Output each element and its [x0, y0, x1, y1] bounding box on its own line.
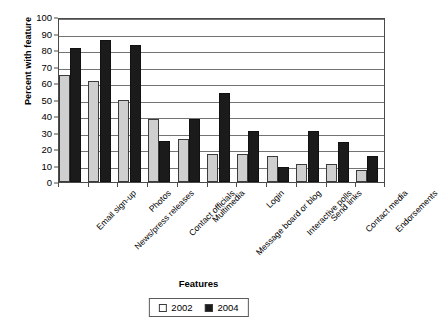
x-tick-mark — [326, 183, 327, 187]
x-tick-mark — [177, 183, 178, 187]
y-tick-label: 20 — [41, 145, 52, 155]
bar-group — [118, 19, 148, 182]
y-tick-label: 60 — [41, 79, 52, 89]
bar-2004 — [367, 156, 378, 182]
bar-2002 — [118, 100, 129, 183]
bar-2004 — [308, 131, 319, 182]
y-tick-label: 0 — [47, 178, 52, 188]
bar-2002 — [148, 119, 159, 182]
bar-2002 — [267, 156, 278, 182]
y-tick-label: 50 — [41, 96, 52, 106]
y-tick-label: 70 — [41, 63, 52, 73]
bar-group — [267, 19, 297, 182]
bar-2004 — [189, 119, 200, 182]
bar-2004 — [100, 40, 111, 182]
bar-group — [237, 19, 267, 182]
y-tick-label: 90 — [41, 30, 52, 40]
x-tick-mark — [296, 183, 297, 187]
bar-2004 — [338, 142, 349, 182]
bar-2002 — [178, 139, 189, 182]
x-tick-mark — [384, 183, 385, 187]
bar-group — [59, 19, 89, 182]
bar-group — [178, 19, 208, 182]
bar-2002 — [207, 154, 218, 182]
y-tick-label: 80 — [41, 46, 52, 56]
bar-2004 — [248, 131, 259, 182]
bar-2002 — [326, 164, 337, 182]
bar-group — [327, 19, 357, 182]
legend-item-2002: 2002 — [158, 302, 192, 313]
x-tick-mark — [147, 183, 148, 187]
bar-2002 — [59, 75, 70, 182]
bar-2002 — [237, 154, 248, 182]
bar-2002 — [88, 81, 99, 182]
x-tick-mark — [117, 183, 118, 187]
bar-group — [297, 19, 327, 182]
bar-2004 — [130, 45, 141, 182]
x-axis-title: Features — [0, 278, 397, 289]
y-tick-label: 10 — [41, 162, 52, 172]
bar-2004 — [278, 167, 289, 182]
y-tick-label: 40 — [41, 112, 52, 122]
bar-group — [208, 19, 238, 182]
bar-2004 — [219, 93, 230, 182]
x-category-label: Login — [264, 188, 286, 210]
x-tick-mark — [236, 183, 237, 187]
bar-group — [89, 19, 119, 182]
chart-legend: 20022004 — [148, 298, 248, 317]
bar-2002 — [356, 170, 367, 182]
bar-2004 — [70, 48, 81, 182]
x-tick-mark — [355, 183, 356, 187]
legend-swatch-icon — [158, 304, 166, 312]
bar-group — [356, 19, 386, 182]
legend-label: 2002 — [171, 302, 192, 313]
x-tick-mark — [88, 183, 89, 187]
legend-swatch-icon — [205, 304, 213, 312]
x-tick-mark — [207, 183, 208, 187]
x-category-label: Email sign-up — [95, 188, 139, 232]
bar-series-container — [59, 19, 384, 182]
y-tick-label: 100 — [36, 13, 52, 23]
plot-area — [58, 18, 385, 183]
y-axis-tick-labels: 0102030405060708090100 — [0, 18, 58, 183]
bar-2004 — [159, 141, 170, 182]
x-tick-mark — [58, 183, 59, 187]
y-tick-label: 30 — [41, 129, 52, 139]
x-axis-category-labels: Email sign-upNews/press releasesPhotosCo… — [58, 188, 385, 268]
legend-item-2004: 2004 — [205, 302, 239, 313]
bar-group — [148, 19, 178, 182]
x-tick-mark — [266, 183, 267, 187]
legend-label: 2004 — [218, 302, 239, 313]
bar-2002 — [296, 164, 307, 182]
